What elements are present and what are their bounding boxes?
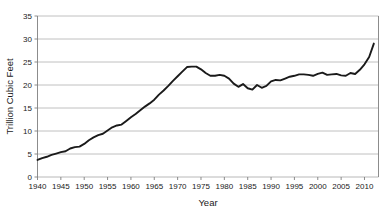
- x-tick-label-1960: 1960: [122, 182, 140, 191]
- chart-container: 0510152025303519401945195019551960196519…: [0, 0, 391, 220]
- y-tick-label-5: 5: [28, 150, 33, 159]
- x-tick-label-1965: 1965: [145, 182, 163, 191]
- x-tick-label-2005: 2005: [332, 182, 350, 191]
- x-tick-label-2000: 2000: [309, 182, 327, 191]
- x-tick-label-1980: 1980: [215, 182, 233, 191]
- x-tick-label-2010: 2010: [356, 182, 374, 191]
- x-tick-label-1940: 1940: [29, 182, 47, 191]
- line-chart: 0510152025303519401945195019551960196519…: [0, 0, 391, 220]
- y-tick-label-25: 25: [23, 58, 32, 67]
- y-tick-label-30: 30: [23, 35, 32, 44]
- y-tick-label-15: 15: [23, 104, 32, 113]
- x-tick-label-1985: 1985: [239, 182, 257, 191]
- x-axis-title: Year: [198, 197, 217, 208]
- x-tick-label-1955: 1955: [99, 182, 117, 191]
- x-tick-label-1950: 1950: [75, 182, 93, 191]
- data-series-line: [38, 44, 374, 160]
- x-tick-label-1975: 1975: [192, 182, 210, 191]
- x-tick-label-1995: 1995: [286, 182, 304, 191]
- x-tick-label-1945: 1945: [52, 182, 70, 191]
- y-tick-label-20: 20: [23, 81, 32, 90]
- y-tick-label-10: 10: [23, 127, 32, 136]
- x-tick-label-1970: 1970: [169, 182, 187, 191]
- x-tick-label-1990: 1990: [262, 182, 280, 191]
- y-axis-title: Trillion Cubic Feet: [4, 58, 15, 135]
- y-tick-label-35: 35: [23, 12, 32, 21]
